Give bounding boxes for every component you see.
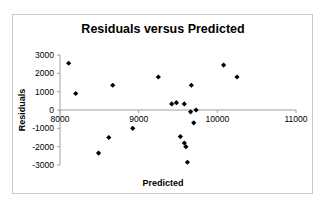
y-tick-label: -1000 [32, 123, 54, 133]
data-point [130, 126, 135, 131]
x-tick-label: 9000 [129, 114, 148, 124]
data-point [96, 150, 101, 155]
data-point [106, 135, 111, 140]
data-point [191, 120, 196, 125]
data-point [221, 62, 226, 67]
x-tick-label: 10000 [206, 114, 230, 124]
y-tick-label: 2000 [35, 68, 54, 78]
data-point [189, 83, 194, 88]
data-point [174, 100, 179, 105]
scatter-chart: Residuals versus Predicted Predicted Res… [0, 0, 326, 207]
data-point [169, 101, 174, 106]
data-points [66, 61, 240, 165]
data-point [182, 101, 187, 106]
x-tick-label: 8000 [51, 114, 70, 124]
data-point [110, 83, 115, 88]
x-tick-label: 11000 [284, 114, 307, 124]
data-point [66, 61, 71, 66]
data-point [234, 74, 239, 79]
data-point [73, 91, 78, 96]
data-point [185, 160, 190, 165]
data-point [156, 74, 161, 79]
y-tick-label: -2000 [32, 142, 54, 152]
y-axis-title: Residuals [17, 89, 27, 132]
y-tick-label: -3000 [32, 160, 54, 170]
x-axis-title: Predicted [142, 178, 183, 188]
data-point [193, 107, 198, 112]
y-tick-label: 1000 [35, 87, 54, 97]
data-point [178, 134, 183, 139]
y-tick-label: 3000 [35, 50, 54, 60]
axes: 3000200010000-1000-2000-3000800090001000… [32, 50, 308, 170]
chart-title: Residuals versus Predicted [81, 22, 244, 36]
